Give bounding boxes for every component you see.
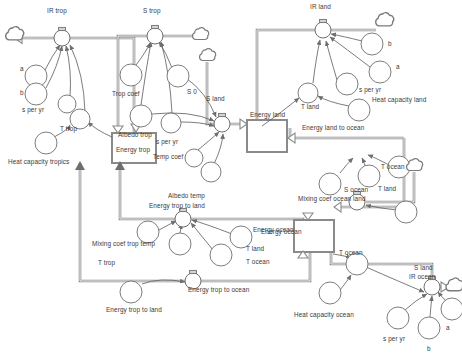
conn-mixing-to-ettl <box>159 221 176 230</box>
arrow-s-land-in <box>240 119 247 129</box>
var-a-ocean[interactable] <box>441 298 462 320</box>
label-energy-ocean-var: Energy ocean <box>253 226 294 234</box>
label-energy-trop-to-ocean-flow: Energy trop to ocean <box>188 286 250 294</box>
label-t-trop: T trop <box>60 125 78 133</box>
label-s-per-yr-trop-2: s per yr <box>156 138 179 146</box>
conn-a-to-ir-trop <box>45 45 60 70</box>
var-b-land[interactable] <box>361 33 383 55</box>
var-energy-trop-to-land[interactable] <box>120 281 142 303</box>
var-t-land-mix[interactable] <box>210 244 232 266</box>
diagram-canvas: IR trop S trop S land IR land S ocean IR… <box>0 0 462 359</box>
conn-mixing-to-ocean-land-flow <box>340 158 353 173</box>
var-t-trop-2[interactable] <box>169 233 191 255</box>
label-temp-coef: Temp coef <box>153 153 184 161</box>
conn-albedotrop-to-strop <box>141 42 151 105</box>
label-s-per-yr-land: s per yr <box>359 86 382 94</box>
label-s-land: S land <box>206 95 225 102</box>
label-ir-ocean: IR ocean <box>409 273 436 280</box>
label-energy-trop-to-land-var: Energy trop to land <box>106 306 162 314</box>
flow-ir-trop[interactable] <box>54 30 70 46</box>
arrow-mixing-ocean-land <box>334 202 341 212</box>
flow-ir-land[interactable] <box>315 22 331 38</box>
label-s-0: S 0 <box>187 88 197 95</box>
label-energy-land: Energy land <box>250 111 286 119</box>
label-b-trop: b <box>20 89 24 96</box>
flow-ir-ocean[interactable] <box>424 279 440 295</box>
pipe-energy-trop-to-land <box>120 163 176 219</box>
var-s-per-yr-trop[interactable] <box>58 95 76 113</box>
label-s-trop: S trop <box>143 7 161 15</box>
label-t-land: T land <box>301 103 320 110</box>
arrow-energy-trop-in-1 <box>75 161 85 170</box>
pipe-energy-trop-to-ocean-left <box>80 163 186 281</box>
label-t-ocean-mix: T ocean <box>246 258 270 265</box>
label-a-ocean: a <box>446 324 450 331</box>
label-b-land: b <box>388 40 392 47</box>
label-t-trop-2: T trop <box>98 259 116 267</box>
conn-a-to-ir-ocean <box>438 292 446 301</box>
flow-energy-trop-to-land[interactable] <box>175 211 191 227</box>
conn-tland-to-ir-land <box>313 40 320 83</box>
var-albedo-trop[interactable] <box>130 105 152 127</box>
flow-s-land[interactable] <box>214 116 230 132</box>
flow-s-trop[interactable] <box>147 28 163 44</box>
var-a-land[interactable] <box>369 61 391 83</box>
var-s-0[interactable] <box>167 65 189 87</box>
label-s-per-yr-ocean: s per yr <box>383 335 406 343</box>
label-ir-trop: IR trop <box>47 7 67 15</box>
label-heat-capacity-ocean: Heat capacity ocean <box>294 311 354 319</box>
var-s-ocean-source[interactable] <box>395 201 417 223</box>
label-heat-capacity-tropics: Heat capacity tropics <box>8 158 69 166</box>
var-s-per-yr-trop-2[interactable] <box>161 113 181 133</box>
var-temp-coef[interactable] <box>185 149 203 167</box>
var-trop-coef[interactable] <box>120 64 142 86</box>
conn-tland-to-ettl <box>191 223 213 250</box>
stock-energy-land[interactable] <box>247 120 287 152</box>
var-albedo-temp[interactable] <box>201 162 221 182</box>
arrow-energy-ocean-top-in <box>303 213 313 220</box>
var-mixing-coef-ocean-land[interactable] <box>319 173 341 195</box>
conn-speryr-to-ir-land <box>326 41 337 80</box>
system-dynamics-diagram: IR trop S trop S land IR land S ocean IR… <box>0 0 462 359</box>
label-t-ocean: T ocean <box>339 249 363 256</box>
label-energy-land-to-ocean: Energy land to ocean <box>302 124 365 132</box>
label-s-land-ocean: S land <box>414 264 433 271</box>
label-t-land-mix: T land <box>246 245 265 252</box>
var-t-land-mix-2[interactable] <box>358 165 380 187</box>
var-heat-capacity-ocean[interactable] <box>319 282 341 304</box>
label-s-per-yr-trop: s per yr <box>22 106 45 114</box>
var-t-ocean[interactable] <box>346 253 368 275</box>
conn-b-to-ir-ocean <box>430 296 432 317</box>
label-mixing-coef-trop-temp: Mixing coef trop temp <box>92 240 156 248</box>
label-energy-trop-to-land-flow: Energy trop to land <box>149 202 205 210</box>
var-b-ocean[interactable] <box>418 317 440 339</box>
conn-energytrop-to-ttrop <box>88 122 112 137</box>
conn-b-to-ir-trop <box>46 46 62 88</box>
var-heat-capacity-land[interactable] <box>348 99 370 121</box>
label-s-ocean: S ocean <box>344 186 368 193</box>
label-b-ocean: b <box>427 345 431 352</box>
label-t-land-mix-2: T land <box>378 185 397 192</box>
label-mixing-coef-ocean-land: Mixing coef ocean land <box>298 195 366 203</box>
label-a-trop: a <box>20 65 24 72</box>
var-t-land[interactable] <box>298 83 318 103</box>
conn-s0-to-strop <box>159 42 172 68</box>
label-ir-land: IR land <box>310 3 331 10</box>
label-heat-capacity-land: Heat capacity land <box>372 96 427 104</box>
conn-heatcapocean-to-tocean <box>340 275 351 290</box>
label-trop-coef: Trop coef <box>112 90 140 98</box>
conn-tempcoef-to-sland <box>198 132 219 150</box>
var-s-per-yr-ocean[interactable] <box>387 307 409 329</box>
conn-speryr-to-ir-ocean <box>405 294 427 310</box>
var-s-per-yr-land[interactable] <box>336 73 358 95</box>
label-a-land: a <box>396 63 400 70</box>
stock-energy-ocean[interactable] <box>294 220 334 252</box>
var-b-trop[interactable] <box>25 83 47 105</box>
var-heat-capacity-tropics[interactable] <box>35 132 57 154</box>
conn-albedotemp-to-sland <box>214 134 223 164</box>
label-albedo-trop: Albedo trop <box>118 131 152 139</box>
variable-circles <box>25 33 462 339</box>
conn-heatcapland-to-tland <box>318 96 349 106</box>
conn-b-to-ir-land <box>331 34 362 41</box>
label-energy-trop: Energy trop <box>116 146 150 154</box>
